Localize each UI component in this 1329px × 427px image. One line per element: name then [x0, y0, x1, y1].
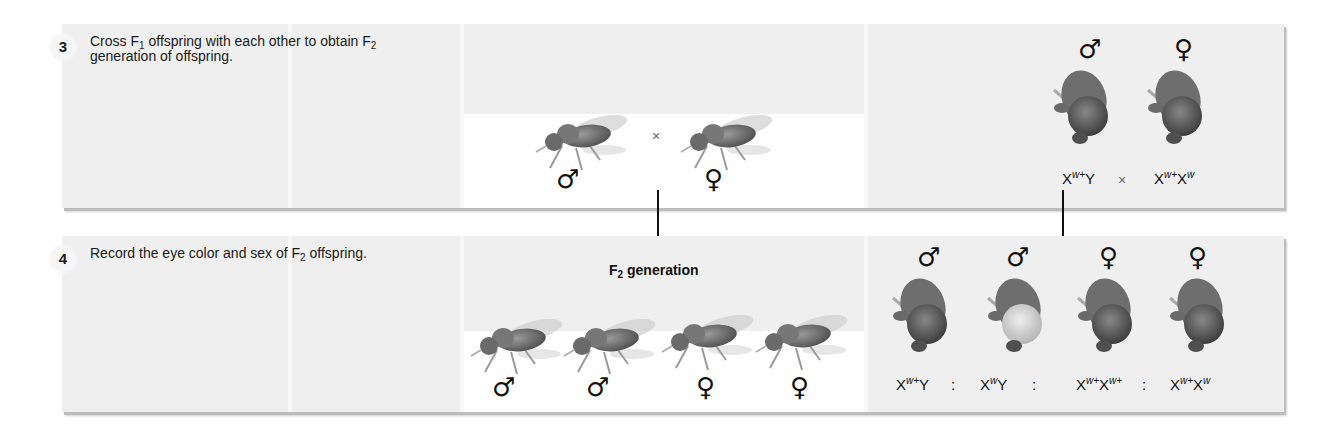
fly-head-red-eye	[1074, 276, 1136, 356]
ratio-separator: :	[951, 376, 955, 393]
fly-side-view-male	[532, 108, 632, 172]
column-divider	[864, 24, 868, 208]
female-symbol-icon: ♀	[1099, 244, 1118, 270]
step-4-panel: 4 Record the eye color and sex of F2 off…	[62, 236, 1284, 412]
female-symbol-icon: ♀	[696, 374, 715, 400]
female-symbol-icon: ♀	[1188, 244, 1207, 270]
step-number-badge: 4	[48, 244, 78, 274]
fly-side-view-female	[658, 308, 758, 372]
genotype-label: Xw+Xw	[1170, 376, 1210, 393]
column-divider	[288, 236, 292, 412]
male-symbol-icon: ♂	[586, 374, 609, 400]
fly-side-view-male	[467, 312, 567, 376]
female-symbol-icon: ♀	[704, 166, 723, 192]
step-instruction: Cross F1 offspring with each other to ob…	[90, 34, 390, 64]
female-symbol-icon: ♀	[790, 374, 809, 400]
fly-head-red-eye	[1144, 68, 1206, 148]
step-3-panel: 3 Cross F1 offspring with each other to …	[62, 24, 1284, 208]
genotype-label: Xw+Y	[1062, 170, 1095, 187]
genotype-label: XwY	[980, 376, 1007, 393]
cross-symbol: ×	[652, 128, 660, 144]
fly-side-view-female	[752, 308, 852, 372]
cross-symbol: ×	[1118, 172, 1126, 188]
fly-head-red-eye	[1050, 68, 1112, 148]
fly-head-red-eye	[1166, 276, 1228, 356]
genotype-label: Xw+Xw+	[1076, 376, 1122, 393]
ratio-separator: :	[1032, 376, 1036, 393]
male-symbol-icon: ♂	[1006, 244, 1029, 270]
genotype-label: Xw+Y	[896, 376, 929, 393]
fly-side-view-male	[560, 312, 660, 376]
fly-head-red-eye	[889, 276, 951, 356]
step-instruction: Record the eye color and sex of F2 offsp…	[90, 246, 390, 261]
male-symbol-icon: ♂	[556, 166, 579, 192]
female-symbol-icon: ♀	[1174, 36, 1193, 62]
fly-head-white-eye	[984, 276, 1046, 356]
male-symbol-icon: ♂	[492, 374, 515, 400]
column-divider	[864, 236, 868, 412]
ratio-separator: :	[1142, 376, 1146, 393]
male-symbol-icon: ♂	[917, 244, 940, 270]
genotype-label: Xw+Xw	[1154, 170, 1194, 187]
photo-background-strip	[464, 114, 864, 208]
male-symbol-icon: ♂	[1078, 36, 1101, 62]
step-number-badge: 3	[48, 32, 78, 62]
fly-side-view-female	[677, 108, 777, 172]
f2-generation-label: F2 generation	[609, 262, 699, 278]
